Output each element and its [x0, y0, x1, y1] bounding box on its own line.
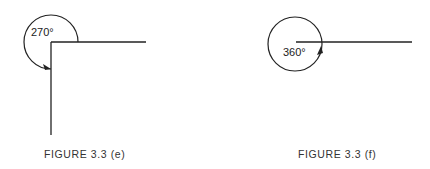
caption-figure-f: FIGURE 3.3 (f): [298, 148, 376, 160]
angle-label-360: 360°: [283, 46, 306, 58]
angle-label-270: 270°: [31, 26, 54, 38]
figures-canvas: 270° 360°: [0, 0, 430, 169]
figure-3-3-f: 360°: [268, 17, 412, 71]
figure-3-3-e: 270°: [24, 15, 146, 135]
caption-figure-e: FIGURE 3.3 (e): [44, 148, 125, 160]
arrowhead-icon: [43, 64, 51, 70]
angle-circle-360: [268, 17, 322, 71]
